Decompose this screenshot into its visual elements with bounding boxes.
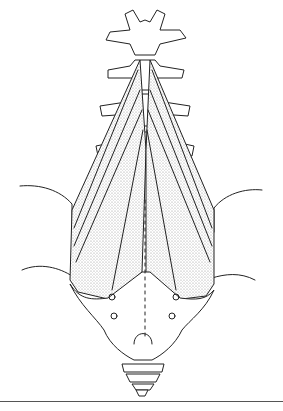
coccyx bbox=[122, 364, 164, 396]
anatomy-illustration bbox=[0, 0, 283, 411]
muscle-right bbox=[146, 60, 214, 300]
bottom-rule bbox=[0, 401, 283, 402]
muscle-left bbox=[70, 60, 146, 300]
